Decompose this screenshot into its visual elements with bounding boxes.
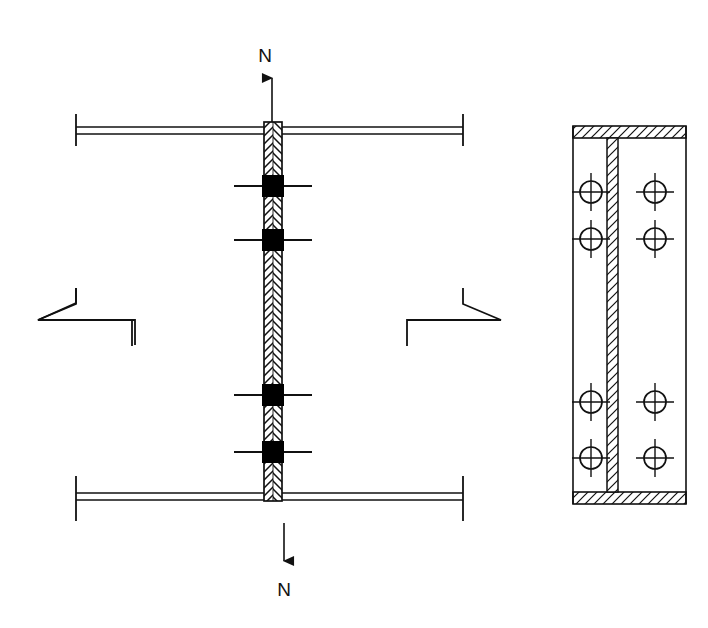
bolt-symbol: [572, 220, 610, 258]
break-line-left: [38, 288, 135, 345]
bolt-block: [234, 384, 312, 406]
bolt-symbol: [636, 220, 674, 258]
section-bottom-flange: [573, 492, 686, 504]
bolt-block: [234, 441, 312, 463]
bolt-symbol: [636, 439, 674, 477]
elevation-view: N N: [38, 45, 521, 600]
bolt-symbol: [636, 383, 674, 421]
section-top-flange: [573, 126, 686, 138]
bolt-block: [234, 175, 312, 197]
bolt-group-section: [572, 173, 674, 477]
section-label-top: N: [258, 45, 272, 66]
bolt-symbol: [636, 173, 674, 211]
bolt-block: [234, 229, 312, 251]
bolt-symbol: [572, 383, 610, 421]
bolt-symbol: [572, 439, 610, 477]
section-web-plate: [607, 138, 618, 492]
break-line-right: [425, 288, 521, 345]
break-symbol-right: [407, 288, 501, 346]
drawing-canvas: N N: [0, 0, 708, 628]
bolt-symbol: [572, 173, 610, 211]
section-label-bottom: N: [277, 579, 291, 600]
section-view-n-n: [572, 126, 686, 504]
break-symbol-left: [38, 288, 132, 346]
engineering-drawing: N N: [0, 0, 708, 628]
